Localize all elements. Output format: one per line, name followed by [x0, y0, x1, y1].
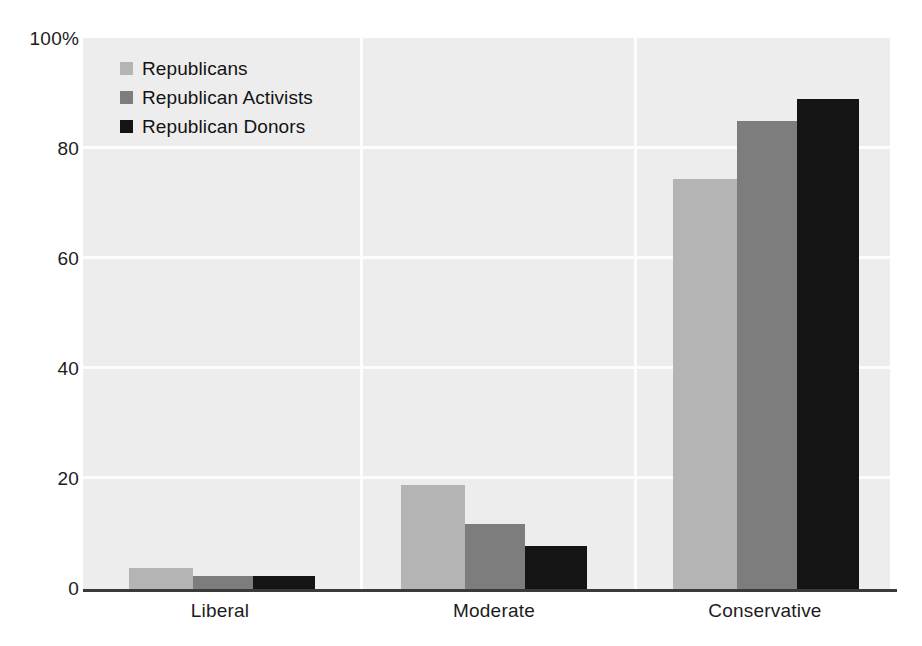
legend-label-republicans: Republicans [142, 58, 248, 80]
bar-liberal-republican-activists [193, 576, 253, 590]
bar-moderate-republicans [401, 485, 465, 590]
y-axis-tick-60: 60 [5, 248, 79, 270]
x-axis-label-liberal: Liberal [120, 600, 320, 622]
legend-row-republicans: Republicans [120, 54, 313, 83]
legend-swatch-republicans-icon [120, 62, 133, 75]
bar-liberal-republican-donors [253, 576, 315, 590]
x-axis-label-moderate: Moderate [394, 600, 594, 622]
legend: Republicans Republican Activists Republi… [120, 54, 313, 141]
y-axis-tick-20: 20 [5, 468, 79, 490]
legend-label-republican-donors: Republican Donors [142, 116, 305, 138]
bar-conservative-republican-activists [737, 121, 797, 590]
y-axis-tick-100: 100% [5, 28, 79, 50]
group-separator-1 [360, 38, 363, 590]
bar-conservative-republicans [673, 179, 737, 590]
bar-conservative-republican-donors [797, 99, 859, 590]
group-separator-2 [634, 38, 637, 590]
plot-area: Republicans Republican Activists Republi… [83, 38, 890, 590]
bar-liberal-republicans [129, 568, 193, 590]
legend-row-republican-donors: Republican Donors [120, 112, 313, 141]
x-axis-label-conservative: Conservative [665, 600, 865, 622]
bar-moderate-republican-donors [525, 546, 587, 590]
y-axis: 100% 80 60 40 20 0 [0, 0, 79, 646]
y-axis-tick-80: 80 [5, 138, 79, 160]
legend-swatch-republican-activists-icon [120, 91, 133, 104]
y-axis-tick-40: 40 [5, 358, 79, 380]
legend-swatch-republican-donors-icon [120, 120, 133, 133]
bar-moderate-republican-activists [465, 524, 525, 590]
grouped-bar-chart: 100% 80 60 40 20 0 [0, 0, 922, 646]
x-axis-line [83, 589, 897, 592]
y-axis-tick-0: 0 [5, 578, 79, 600]
legend-label-republican-activists: Republican Activists [142, 87, 313, 109]
legend-row-republican-activists: Republican Activists [120, 83, 313, 112]
